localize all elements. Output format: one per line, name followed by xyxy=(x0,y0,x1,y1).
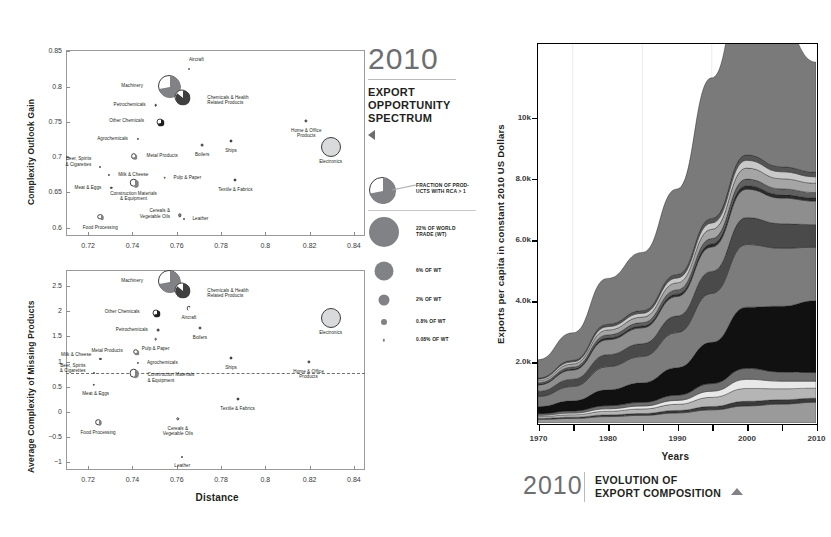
stream-x-tick-mark xyxy=(712,425,714,431)
stream-x-tick-label: 2000 xyxy=(732,434,762,443)
legend-size-bubble xyxy=(375,261,394,280)
x-axis-label-distance: Distance xyxy=(196,492,239,503)
x-tick-label: 0.72 xyxy=(76,476,100,483)
bubble-label: Agrochemicals xyxy=(147,360,178,366)
x-tick-mark xyxy=(132,466,133,470)
product-bubble[interactable] xyxy=(152,310,159,317)
caption-text: EVOLUTION OF EXPORT COMPOSITION xyxy=(595,474,743,499)
product-bubble[interactable] xyxy=(321,308,341,328)
y-tick-label: −0.5 xyxy=(40,433,62,440)
stream-y-tick-mark xyxy=(532,301,537,303)
bubble-pie-wedge xyxy=(130,370,139,379)
bubble-label: Food Processing xyxy=(80,430,115,436)
stream-x-tick-label: 2010 xyxy=(802,434,831,443)
bubble-label: Ships xyxy=(225,365,237,371)
stream-y-tick-mark xyxy=(532,240,537,242)
y-axis-label-stream: Exports per capita in constant 2010 US D… xyxy=(495,124,506,344)
bubble-pie-wedge xyxy=(176,283,191,298)
product-bubble[interactable] xyxy=(133,349,139,355)
legend-size-bubble xyxy=(369,217,399,247)
x-tick-label: 0.74 xyxy=(120,476,144,483)
y-tick-label: 0.5 xyxy=(40,383,62,390)
x-tick-label: 0.8 xyxy=(253,476,277,483)
y-tick-mark xyxy=(66,437,70,438)
stream-y-tick-mark xyxy=(532,362,537,364)
legend-size-bubble xyxy=(381,319,387,325)
legend-size-label: 22% OF WORLD TRADE (WT) xyxy=(416,226,456,238)
product-bubble[interactable] xyxy=(157,329,160,332)
x-tick-label: 0.78 xyxy=(209,476,233,483)
stream-y-tick-label: 2.0k xyxy=(505,357,531,366)
y-tick-label: 1.5 xyxy=(40,332,62,339)
y-tick-mark xyxy=(66,336,70,337)
product-bubble[interactable] xyxy=(181,456,183,458)
legend-pie-label: FRACTION OF PROD- UCTS WITH RCA > 1 xyxy=(416,183,469,195)
product-bubble[interactable] xyxy=(154,338,157,341)
bubble-label: Home & Office Products xyxy=(293,369,323,380)
stream-x-tick-label: 1990 xyxy=(663,434,693,443)
y-tick-label: 2 xyxy=(40,307,62,314)
bubble-label: Leather xyxy=(174,463,190,469)
y-tick-label: 1 xyxy=(40,358,62,365)
stream-x-tick-mark xyxy=(782,425,784,431)
y-tick-label: 0 xyxy=(40,408,62,415)
legend-year: 2010 xyxy=(368,44,483,74)
bubble-label: Petrochemicals xyxy=(116,327,148,333)
bubble-label: Machinery xyxy=(121,278,143,284)
y-axis-label-bottom: Average Complexity of Missing Products xyxy=(26,300,36,473)
product-bubble[interactable] xyxy=(230,356,233,359)
y-tick-label: 2.5 xyxy=(40,282,62,289)
x-tick-label: 0.82 xyxy=(298,476,322,483)
stream-x-tick-mark xyxy=(817,425,819,431)
triangle-left-icon[interactable] xyxy=(368,130,375,140)
product-bubble[interactable] xyxy=(236,398,239,401)
bubble-label: Milk & Cheese xyxy=(61,352,91,358)
product-bubble[interactable] xyxy=(95,419,101,425)
bubble-label: Pulp & Paper xyxy=(142,346,170,352)
x-tick-mark xyxy=(310,466,311,470)
stream-y-tick-label: 6.0k xyxy=(505,235,531,244)
bubble-label: Metal Products xyxy=(91,348,122,354)
stream-y-tick-mark xyxy=(532,118,537,120)
stream-x-tick-mark xyxy=(573,425,575,431)
bubble-label: Meat & Eggs xyxy=(82,391,109,397)
legend-title-line-3: SPECTRUM xyxy=(368,112,483,125)
legend-size-label: 0.8% OF WT xyxy=(416,319,446,325)
stream-x-tick-mark xyxy=(747,425,749,431)
stream-x-tick-label: 1980 xyxy=(593,434,623,443)
legend-pie-sample[interactable] xyxy=(369,177,395,203)
product-bubble[interactable] xyxy=(129,369,138,378)
triangle-up-icon[interactable] xyxy=(731,488,743,495)
legend-title-line-1: EXPORT xyxy=(368,86,483,99)
infographic-page: Complexity Outlook Gain 0.60.650.70.750.… xyxy=(0,0,831,537)
legend-title-line-2: OPPORTUNITY xyxy=(368,99,483,112)
bubble-label: Boilers xyxy=(193,335,207,341)
product-bubble[interactable] xyxy=(93,372,95,374)
stream-x-tick-mark xyxy=(678,425,680,431)
y-tick-mark xyxy=(66,462,70,463)
legend-divider xyxy=(368,79,456,80)
x-tick-label: 0.84 xyxy=(342,476,366,483)
bubble-pie-wedge xyxy=(153,311,160,318)
caption-year: 2010 xyxy=(523,472,583,498)
y-tick-label: −1 xyxy=(40,458,62,465)
y-tick-mark xyxy=(66,387,70,388)
x-tick-mark xyxy=(354,466,355,470)
legend-size-label: 6% OF WT xyxy=(416,268,441,274)
product-bubble[interactable] xyxy=(198,327,201,330)
caption-line-2: EXPORT COMPOSITION xyxy=(595,487,721,499)
stream-area-paths xyxy=(538,44,816,423)
y-tick-mark xyxy=(66,286,70,287)
bubble-label: Construction Materials & Equipment xyxy=(148,372,195,383)
bubble-label: Aircraft xyxy=(181,315,196,321)
stream-x-tick-mark xyxy=(539,425,541,431)
product-bubble[interactable] xyxy=(175,282,190,297)
legend-size-bubble xyxy=(379,294,390,305)
bubble-label: Beer, Spirits & Cigarettes xyxy=(60,363,86,374)
export-opportunity-legend-panel: 2010 EXPORT OPPORTUNITY SPECTRUM xyxy=(368,44,483,140)
product-bubble[interactable] xyxy=(187,306,191,310)
y-tick-mark xyxy=(66,412,70,413)
x-axis-label-years: Years xyxy=(662,451,690,462)
stream-x-tick-mark xyxy=(608,425,610,431)
bubble-label: Chemicals & Health Related Products xyxy=(207,288,248,299)
